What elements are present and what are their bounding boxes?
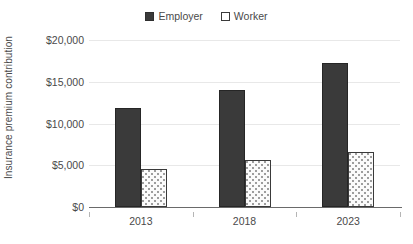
x-axis-line [89,207,402,208]
y-tick-label: $0 [22,202,84,213]
bar-worker-2023 [348,152,374,207]
gridline [89,82,400,83]
legend-label-employer: Employer [158,11,202,22]
y-axis-tick-labels: $20,000 $15,000 $10,000 $5,000 $0 [20,0,84,244]
y-tick-label: $5,000 [22,160,84,171]
legend-label-worker: Worker [234,11,268,22]
legend-entry-employer[interactable]: Employer [145,11,202,22]
x-tick-label: 2018 [193,216,297,227]
outlined-square-icon [221,12,230,21]
y-tick-label: $20,000 [22,35,84,46]
bar-employer-2018 [219,90,245,207]
x-axis-tick-labels: 2013 2018 2023 [89,212,400,236]
bar-chart: Employer Worker Insurance premium contri… [0,0,413,244]
y-tick-label: $10,000 [22,119,84,130]
legend-entry-worker[interactable]: Worker [221,11,268,22]
y-axis-title-text: Insurance premium contribution [4,36,15,179]
gridline [89,40,400,41]
x-axis-tick-mark [400,212,401,217]
bar-employer-2023 [322,63,348,207]
bar-worker-2013 [141,169,167,207]
y-tick-label: $15,000 [22,77,84,88]
x-tick-label: 2023 [296,216,400,227]
bar-worker-2018 [245,160,271,207]
filled-square-icon [145,12,154,21]
plot-area [89,40,400,207]
x-tick-label: 2013 [89,216,193,227]
bar-employer-2013 [115,108,141,207]
y-axis-title: Insurance premium contribution [0,0,18,215]
